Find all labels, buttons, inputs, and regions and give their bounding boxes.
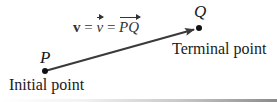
vector-diagram: v = v = PQ Q Terminal point P Initial po…: [0, 0, 277, 102]
vector-equation: v = v = PQ: [73, 19, 140, 36]
terminal-point-label: Q: [194, 2, 206, 22]
bold-v-symbol: v: [73, 19, 81, 35]
arrow-v-symbol: v: [96, 19, 103, 36]
terminal-point-dot: [196, 25, 202, 31]
terminal-point-caption: Terminal point: [172, 40, 266, 58]
initial-point-caption: Initial point: [9, 76, 84, 94]
initial-point-dot: [42, 68, 48, 74]
initial-point-label: P: [40, 48, 50, 68]
bottom-divider: [0, 99, 277, 102]
pq-vector-symbol: PQ: [119, 19, 140, 36]
